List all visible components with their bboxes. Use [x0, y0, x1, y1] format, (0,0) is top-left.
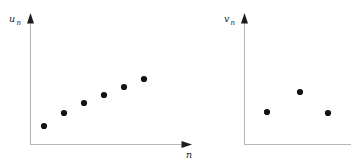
data-point	[121, 84, 127, 90]
left-x-axis-label-main: n	[186, 149, 192, 160]
right-data-points	[264, 89, 331, 116]
data-point	[325, 110, 331, 116]
data-point	[297, 89, 303, 95]
data-point	[61, 110, 67, 116]
left-y-axis-arrowhead	[27, 13, 34, 24]
right-y-axis-label-main: v	[224, 13, 230, 24]
left-y-axis-label: u n	[9, 13, 22, 27]
right-y-axis-label: v n	[224, 13, 236, 27]
left-data-points	[41, 76, 147, 129]
data-point	[101, 92, 107, 98]
right-panel: v n	[224, 13, 351, 145]
data-point	[141, 76, 147, 82]
left-panel: u n n	[9, 13, 192, 160]
data-point	[264, 109, 270, 115]
right-y-axis-arrowhead	[241, 13, 248, 24]
left-y-axis-label-main: u	[9, 13, 15, 24]
data-point	[81, 100, 87, 106]
figure-sequence-plots: u n n v n	[0, 0, 351, 163]
right-y-axis-label-subscript: n	[231, 19, 236, 27]
data-point	[41, 123, 47, 129]
left-y-axis-label-subscript: n	[17, 19, 22, 27]
left-x-axis-label: n	[186, 149, 192, 160]
left-x-axis-arrowhead	[182, 141, 193, 148]
